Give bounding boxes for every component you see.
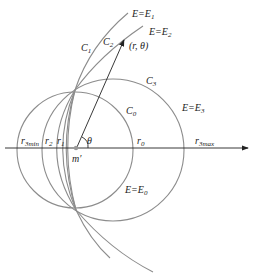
label-point: (r, θ) bbox=[129, 40, 149, 52]
label-r3min: r3min bbox=[21, 135, 39, 148]
label-c2: C2 bbox=[103, 36, 114, 49]
label-origin: m′ bbox=[72, 153, 82, 164]
label-r0: r0 bbox=[137, 135, 145, 148]
label-e2: E=E2 bbox=[148, 26, 172, 39]
label-c1: C1 bbox=[81, 42, 91, 55]
label-r3max: r3max bbox=[195, 135, 215, 148]
label-r2: r2 bbox=[45, 135, 53, 148]
label-c0: C0 bbox=[126, 105, 137, 118]
label-e0: E=E0 bbox=[124, 184, 148, 197]
label-e1: E=E1 bbox=[131, 8, 154, 21]
radius-vector bbox=[77, 40, 124, 147]
label-theta: θ bbox=[87, 135, 92, 146]
label-e3: E=E3 bbox=[181, 102, 205, 115]
orbit-diagram: E=E1 E=E2 C1 C2 (r, θ) C3 C0 E=E3 E=E0 r… bbox=[0, 0, 253, 276]
circle-c0 bbox=[17, 92, 133, 208]
diagram-canvas: E=E1 E=E2 C1 C2 (r, θ) C3 C0 E=E3 E=E0 r… bbox=[0, 0, 253, 276]
origin-point bbox=[74, 146, 78, 150]
label-c3: C3 bbox=[146, 75, 157, 88]
